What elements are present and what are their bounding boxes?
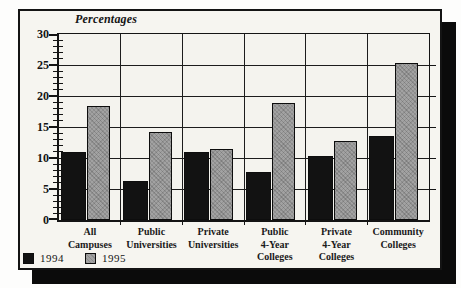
major-tick-0 [49,218,59,220]
major-tick-10 [49,157,59,159]
bar-1994-4 [308,156,333,220]
legend: 1994 1995 [23,252,126,264]
minor-tick-16 [53,120,63,121]
category-tick-4 [305,220,306,225]
right-tick-25 [429,65,436,66]
category-label-line: Community [359,226,437,239]
minor-tick-24 [53,71,63,72]
category-tick-2 [182,220,183,225]
legend-swatch-1994 [23,253,34,264]
legend-item-1995: 1995 [85,252,126,264]
bar-1994-1 [123,181,148,220]
right-tick-5 [429,189,436,190]
category-label-5: CommunityColleges [359,226,437,251]
category-divider-1 [120,34,121,220]
chart-title: Percentages [75,12,137,27]
category-divider-2 [182,34,183,220]
y-axis-labels: 051015202530 [18,34,49,220]
plot-area: 051015202530 AllCampusesPublicUniversiti… [57,33,430,222]
category-divider-3 [244,34,245,220]
major-tick-15 [49,126,59,128]
right-tick-15 [429,127,436,128]
minor-tick-13 [53,139,63,140]
major-tick-25 [49,64,59,66]
bar-1995-5 [395,63,418,220]
category-tick-3 [244,220,245,225]
category-label-line: Colleges [359,239,437,252]
right-tick-10 [429,158,436,159]
y-tick-label-10: 10 [37,151,49,165]
minor-tick-27 [53,52,63,53]
bar-1995-1 [149,132,172,220]
minor-tick-19 [53,102,63,103]
bar-1994-5 [369,136,394,220]
legend-item-1994: 1994 [23,252,64,264]
minor-tick-14 [53,133,63,134]
category-divider-5 [367,34,368,220]
bar-1995-2 [210,149,233,220]
bar-1994-2 [184,152,209,220]
minor-tick-17 [53,114,63,115]
y-tick-label-30: 30 [37,27,49,41]
major-tick-20 [49,95,59,97]
major-tick-5 [49,188,59,190]
legend-label-1994: 1994 [40,252,64,264]
category-tick-5 [367,220,368,225]
figure: Percentages 051015202530 AllCampusesPubl… [0,0,461,288]
minor-tick-23 [53,77,63,78]
minor-tick-12 [53,145,63,146]
minor-tick-21 [53,89,63,90]
minor-tick-29 [53,40,63,41]
minor-tick-26 [53,58,63,59]
bar-1994-0 [61,152,86,220]
y-tick-label-15: 15 [37,120,49,134]
right-tick-20 [429,96,436,97]
bar-1995-3 [272,103,295,220]
minor-tick-22 [53,83,63,84]
bar-1995-0 [87,106,110,220]
category-label-line: Colleges [298,251,376,264]
minor-tick-18 [53,108,63,109]
bar-1994-3 [246,172,271,220]
y-tick-label-25: 25 [37,58,49,72]
legend-swatch-1995 [85,253,96,264]
minor-tick-28 [53,46,63,47]
y-tick-label-0: 0 [43,213,49,227]
chart-panel: Percentages 051015202530 AllCampusesPubl… [18,9,442,270]
category-tick-1 [120,220,121,225]
y-tick-label-20: 20 [37,89,49,103]
legend-label-1995: 1995 [102,252,126,264]
category-divider-4 [305,34,306,220]
major-tick-30 [49,34,59,36]
bar-1995-4 [334,141,357,220]
